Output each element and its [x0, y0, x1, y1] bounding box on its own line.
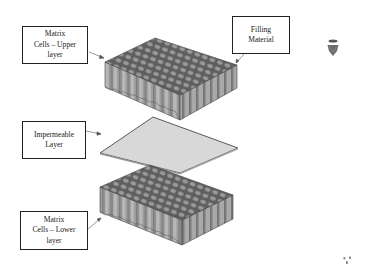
lower-matrix-block — [100, 165, 233, 245]
small-mark-icon — [344, 257, 351, 265]
label-lower-matrix-cells: Matrix Cells – Lower layer — [20, 211, 88, 250]
upper-matrix-block — [105, 38, 237, 120]
label-line: Impermeable — [34, 130, 74, 141]
label-line: layer — [34, 50, 76, 61]
label-line: Cells – Lower — [32, 225, 75, 236]
label-line: Matrix — [34, 29, 76, 40]
label-upper-matrix-cells: Matrix Cells – Upper layer — [22, 26, 88, 64]
label-line: layer — [32, 236, 75, 247]
impermeable-plate — [100, 117, 238, 175]
label-line: Matrix — [32, 215, 75, 226]
label-line: Cells – Upper — [34, 40, 76, 51]
label-line: Layer — [34, 140, 74, 151]
label-impermeable-layer: Impermeable Layer — [22, 121, 86, 159]
label-filling-material: Filling Material — [232, 16, 290, 54]
label-line: Filling — [248, 25, 274, 36]
label-line: Material — [248, 35, 274, 46]
shield-logo-icon — [328, 39, 339, 56]
